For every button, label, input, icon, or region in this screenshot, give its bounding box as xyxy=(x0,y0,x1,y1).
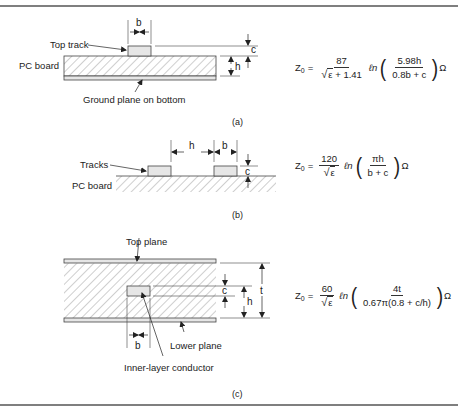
caption-b: (b) xyxy=(232,210,243,220)
formula-a-arg: 5.98h 0.8b + c xyxy=(390,55,428,80)
formula-b-lhs: Z0 xyxy=(295,160,305,172)
paren-open-icon: ( xyxy=(355,154,361,178)
label-top-plane: Top plane xyxy=(126,236,167,247)
formula-a-lhs: Z0 xyxy=(295,62,305,74)
formula-c-eq: = xyxy=(308,290,314,301)
formula-b: Z0 = 120 √ε ℓn ( πh b + c ) Ω xyxy=(295,153,408,178)
caption-c: (c) xyxy=(232,389,243,399)
dim-h-c: h xyxy=(247,296,253,307)
formula-b-ln: ℓn xyxy=(344,160,352,171)
formula-b-eq: = xyxy=(308,160,314,171)
label-top-track: Top track xyxy=(50,39,89,50)
label-ground-plane: Ground plane on bottom xyxy=(83,94,186,105)
panel-c-diagram xyxy=(64,238,270,356)
formula-b-arg: πh b + c xyxy=(366,153,391,178)
dim-b-a: b xyxy=(136,17,142,28)
formula-a-coef: 87 √ε + 1.41 xyxy=(319,55,364,80)
track-left xyxy=(148,166,171,176)
label-lower-plane: Lower plane xyxy=(170,340,222,351)
formula-b-unit: Ω xyxy=(401,160,408,171)
formula-c-coef: 60 √ε xyxy=(319,283,334,308)
paren-close-icon: ) xyxy=(394,154,400,178)
formula-c-lhs: Z0 xyxy=(295,290,305,302)
formula-a-eq: = xyxy=(308,62,314,73)
formula-c: Z0 = 60 √ε ℓn ( 4t 0.67π(0.8 + c/h) ) Ω xyxy=(295,283,451,308)
inner-conductor xyxy=(127,286,150,296)
formula-b-coef: 120 √ε xyxy=(319,153,339,178)
dim-c-a: c xyxy=(251,44,256,55)
dim-t-c: t xyxy=(260,285,263,296)
dim-c-b: c xyxy=(245,166,250,177)
paren-open-icon: ( xyxy=(380,56,386,80)
formula-c-unit: Ω xyxy=(444,290,451,301)
panel-a-diagram xyxy=(64,20,258,92)
dim-h-a: h xyxy=(235,61,241,72)
track-right xyxy=(214,166,237,176)
top-track xyxy=(128,46,151,56)
dim-b-b: b xyxy=(222,140,228,151)
paren-close-icon: ) xyxy=(437,284,443,308)
dim-h-b: h xyxy=(189,140,195,151)
paren-open-icon: ( xyxy=(351,284,357,308)
label-pc-board-b: PC board xyxy=(72,180,112,191)
formula-a: Z0 = 87 √ε + 1.41 ℓn ( 5.98h 0.8b + c ) … xyxy=(295,55,446,80)
caption-a: (a) xyxy=(232,117,243,127)
formula-a-ln: ℓn xyxy=(369,62,377,73)
formula-c-arg: 4t 0.67π(0.8 + c/h) xyxy=(361,283,433,308)
label-pc-board-a: PC board xyxy=(19,60,59,71)
formula-a-unit: Ω xyxy=(439,62,446,73)
label-tracks: Tracks xyxy=(80,159,108,170)
dim-b-c: b xyxy=(135,340,141,351)
formula-c-ln: ℓn xyxy=(340,290,348,301)
paren-close-icon: ) xyxy=(432,56,438,80)
label-inner-conductor: Inner-layer conductor xyxy=(124,362,214,373)
dim-c-c: c xyxy=(222,285,227,296)
